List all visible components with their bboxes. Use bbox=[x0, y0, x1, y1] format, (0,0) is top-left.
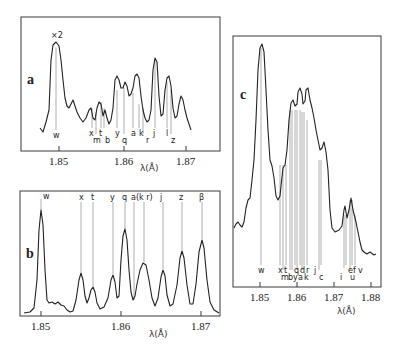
panel-b-xtick-3: 1.87 bbox=[191, 320, 211, 332]
svg-text:r: r bbox=[146, 136, 150, 145]
panel-b: b w x t y q a(k r) j z β 1.85 bbox=[20, 191, 220, 339]
panel-a-peak-labels: w x t y a k j l m b q r z bbox=[53, 129, 175, 145]
scale-note: ×2 bbox=[51, 31, 63, 40]
svg-text:q: q bbox=[122, 136, 127, 145]
svg-text:a(k r): a(k r) bbox=[131, 193, 153, 202]
panel-a-markers bbox=[56, 48, 171, 134]
svg-text:β: β bbox=[199, 193, 204, 202]
svg-text:c: c bbox=[319, 273, 323, 282]
panel-c-markers bbox=[261, 48, 355, 270]
svg-text:w: w bbox=[43, 192, 50, 201]
panel-c: c w x t q d bbox=[233, 36, 381, 316]
panel-a-xtick-2: 1.86 bbox=[114, 155, 134, 167]
panel-c-xtick-1: 1.85 bbox=[250, 291, 270, 303]
svg-text:k: k bbox=[304, 273, 309, 282]
panel-c-label: c bbox=[240, 87, 246, 102]
svg-text:z: z bbox=[171, 136, 175, 145]
svg-text:x: x bbox=[79, 193, 84, 202]
panel-c-xtick-3: 1.87 bbox=[324, 291, 344, 303]
svg-text:j: j bbox=[313, 266, 316, 275]
svg-text:z: z bbox=[179, 193, 183, 202]
svg-text:t: t bbox=[91, 193, 94, 202]
panel-b-xlabel: λ(Å) bbox=[149, 328, 168, 339]
panel-b-spectrum bbox=[24, 210, 219, 313]
panel-b-label: b bbox=[26, 246, 34, 261]
panel-a-label: a bbox=[27, 72, 34, 87]
svg-text:v: v bbox=[358, 266, 363, 275]
svg-text:b: b bbox=[105, 136, 110, 145]
panel-b-xtick-1: 1.85 bbox=[31, 320, 51, 332]
svg-text:w: w bbox=[258, 266, 265, 275]
svg-text:a: a bbox=[131, 129, 136, 138]
panel-b-peak-labels: w x t y q a(k r) j z β bbox=[43, 192, 204, 202]
svg-text:q: q bbox=[122, 193, 127, 202]
panel-b-frame bbox=[20, 191, 220, 316]
svg-text:m: m bbox=[93, 136, 101, 145]
svg-text:j: j bbox=[159, 193, 162, 202]
svg-text:w: w bbox=[53, 131, 60, 140]
panel-a-xtick-1: 1.85 bbox=[49, 155, 69, 167]
svg-text:u: u bbox=[350, 273, 355, 282]
panel-c-peak-labels: w x t q d r j e f v m b y a k c i u bbox=[258, 266, 363, 282]
panel-a: a ×2 w x t y a k j l bbox=[21, 17, 220, 173]
svg-text:k: k bbox=[139, 129, 144, 138]
svg-text:i: i bbox=[340, 273, 342, 282]
svg-text:j: j bbox=[152, 129, 155, 138]
panel-a-spectrum bbox=[40, 42, 191, 132]
figure-canvas: a ×2 w x t y a k j l bbox=[0, 0, 397, 349]
panel-b-xtick-2: 1.86 bbox=[111, 320, 131, 332]
panel-a-xlabel: λ(Å) bbox=[140, 162, 159, 173]
panel-c-xtick-2: 1.86 bbox=[287, 291, 307, 303]
svg-text:a: a bbox=[298, 273, 303, 282]
panel-a-xtick-3: 1.87 bbox=[176, 155, 196, 167]
svg-text:l: l bbox=[166, 129, 168, 138]
svg-text:y: y bbox=[110, 193, 115, 202]
panel-c-xlabel: λ(Å) bbox=[337, 305, 356, 316]
svg-text:y: y bbox=[115, 129, 120, 138]
panel-c-xtick-4: 1.88 bbox=[361, 291, 381, 303]
